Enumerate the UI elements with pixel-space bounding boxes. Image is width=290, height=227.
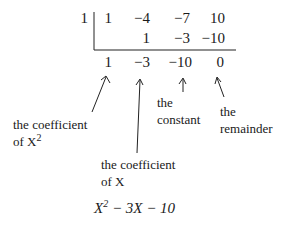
cell: −3 xyxy=(160,31,190,46)
arrow-coef-x xyxy=(136,79,143,153)
cell: −10 xyxy=(162,55,192,70)
cell: 1 xyxy=(82,55,112,70)
arrow-remainder xyxy=(215,77,224,97)
cell: −7 xyxy=(160,11,190,26)
label-constant: the constant xyxy=(157,94,200,128)
cell: 1 xyxy=(120,31,150,46)
cell: 0 xyxy=(194,55,224,70)
cell: 1 xyxy=(82,11,112,26)
arrow-constant xyxy=(179,78,186,92)
cell: −10 xyxy=(195,31,225,46)
label-coef-x: the coefficient of X xyxy=(101,156,175,190)
arrow-coef-x2 xyxy=(92,76,110,112)
label-remainder: the remainder xyxy=(220,103,273,137)
label-coef-x2: the coefficient of X2 xyxy=(13,116,87,150)
cell: −4 xyxy=(120,11,150,26)
quotient-expression: X2 − 3X − 10 xyxy=(94,200,175,217)
cell: −3 xyxy=(120,55,150,70)
cell: 10 xyxy=(195,11,225,26)
